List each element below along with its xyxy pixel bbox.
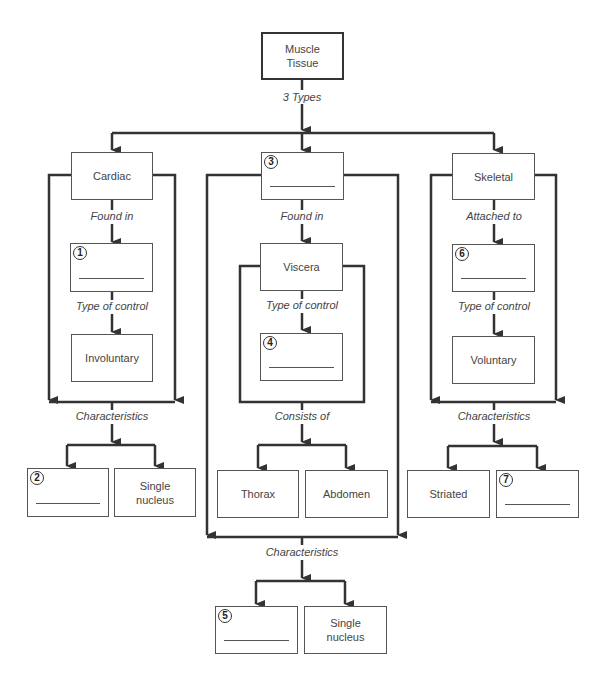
label-line2: nucleus: [136, 493, 174, 507]
blank-number-badge: 4: [263, 336, 277, 350]
node-striated-label: Striated: [430, 487, 468, 501]
node-abdomen-label: Abdomen: [323, 487, 370, 501]
label-line1: Single: [330, 616, 361, 630]
node-involuntary: Involuntary: [71, 334, 153, 382]
blank-node-2[interactable]: 2: [27, 468, 109, 517]
blank-number-badge: 5: [218, 609, 232, 623]
root-label-line2: Tissue: [287, 56, 319, 70]
blank-node-7[interactable]: 7: [496, 470, 579, 518]
answer-line: [79, 278, 144, 279]
node-single-nucleus-cardiac: Single nucleus: [114, 468, 196, 517]
node-skeletal-label: Skeletal: [474, 170, 513, 184]
root-node-muscle-tissue: Muscle Tissue: [261, 32, 344, 80]
blank-node-5[interactable]: 5: [215, 606, 298, 654]
edge-label-smooth-control: Type of control: [264, 299, 340, 311]
answer-line: [505, 504, 570, 505]
node-viscera: Viscera: [260, 243, 343, 291]
answer-line: [224, 640, 289, 641]
node-voluntary-label: Voluntary: [471, 353, 517, 367]
answer-line: [36, 503, 100, 504]
blank-number-badge: 6: [455, 247, 469, 261]
blank-node-1[interactable]: 1: [70, 243, 153, 292]
edge-label-skeletal-control: Type of control: [456, 300, 532, 312]
edge-label-consists-of: Consists of: [273, 410, 331, 422]
label-line2: nucleus: [327, 630, 365, 644]
answer-line: [461, 278, 526, 279]
node-abdomen: Abdomen: [305, 470, 388, 518]
node-thorax-label: Thorax: [241, 487, 275, 501]
blank-node-6[interactable]: 6: [452, 244, 535, 292]
node-involuntary-label: Involuntary: [85, 351, 139, 365]
answer-line: [270, 186, 335, 187]
node-viscera-label: Viscera: [283, 260, 319, 274]
edge-label-smooth-found-in: Found in: [279, 210, 326, 222]
edge-label-skeletal-characteristics: Characteristics: [456, 410, 533, 422]
edge-label-cardiac-found-in: Found in: [89, 210, 136, 222]
edge-label-cardiac-control: Type of control: [74, 300, 150, 312]
edge-label-attached-to: Attached to: [464, 210, 524, 222]
node-skeletal: Skeletal: [452, 153, 535, 200]
blank-number-badge: 1: [73, 246, 87, 260]
label-line1: Single: [140, 479, 171, 493]
answer-line: [269, 367, 334, 368]
node-cardiac: Cardiac: [71, 152, 153, 200]
node-cardiac-label: Cardiac: [93, 169, 131, 183]
blank-number-badge: 2: [30, 471, 44, 485]
edge-label-3-types: 3 Types: [281, 91, 323, 103]
blank-number-badge: 3: [264, 155, 278, 169]
node-voluntary: Voluntary: [452, 336, 535, 384]
node-single-nucleus-smooth: Single nucleus: [304, 606, 387, 654]
edge-label-cardiac-characteristics: Characteristics: [74, 410, 151, 422]
blank-number-badge: 7: [499, 473, 513, 487]
edge-label-smooth-characteristics: Characteristics: [264, 546, 341, 558]
node-striated: Striated: [407, 470, 490, 518]
root-label-line1: Muscle: [285, 42, 320, 56]
blank-node-4[interactable]: 4: [260, 333, 343, 381]
node-thorax: Thorax: [217, 470, 299, 518]
blank-node-3[interactable]: 3: [261, 152, 344, 200]
